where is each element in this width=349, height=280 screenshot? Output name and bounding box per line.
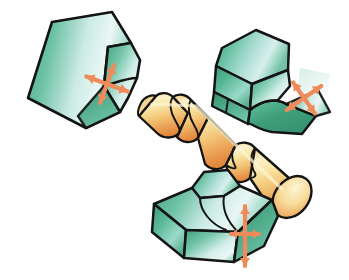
illustration-root [0, 0, 349, 280]
technical-illustration [0, 0, 349, 280]
